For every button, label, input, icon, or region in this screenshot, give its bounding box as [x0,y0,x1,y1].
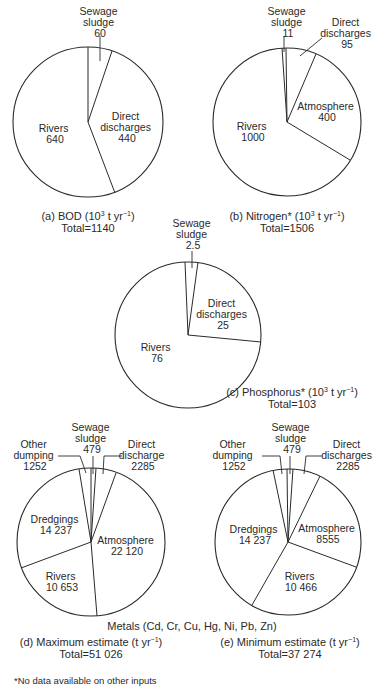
pie-chart-bod: Sewage sludge 60 Direct discharges 440 R… [13,5,163,234]
metals-heading: Metals (Cd, Cr, Cu, Hg, Ni, Pb, Zn) [107,620,276,632]
chart-caption: (a) BOD (103 t yr−1) [41,210,134,222]
chart-total: Total=37 274 [258,648,321,660]
label-rivers: Rivers 1000 [237,120,270,143]
label-rivers: Rivers 10 466 [285,570,318,593]
chart-total: Total=103 [268,398,316,410]
chart-total: Total=1506 [260,222,314,234]
chart-total: Total=51 026 [59,648,122,660]
label-rivers: Rivers 10 653 [46,570,79,593]
label-direct-discharge: Direct discharge 2285 [119,438,167,472]
label-other-dumping: Other dumping 1252 [13,438,56,472]
label-direct-discharges: Direct discharges 95 [320,16,374,50]
pie-chart-nitrogen: Sewage sludge 11 Direct discharges 95 At… [213,5,374,234]
chart-caption: (c) Phosphorus* (103 t yr−1) [226,386,358,398]
chart-caption: (d) Maximum estimate (t yr−1) [20,636,162,648]
chart-caption: (e) Minimum estimate (t yr−1) [220,636,359,648]
label-sewage-sludge: Sewage sludge 11 [268,5,309,39]
label-direct-discharges: Direct discharges 2285 [321,438,375,472]
chart-caption: (b) Nitrogen* (103 t yr−1) [229,210,344,222]
footnote: *No data available on other inputs [14,675,157,686]
pie-chart-phosphorus: Sewage sludge 2.5 Direct discharges 25 R… [115,217,358,410]
label-sewage-sludge: Sewage sludge 479 [72,421,113,455]
label-sewage-sludge: Sewage sludge 2.5 [173,217,214,251]
label-other-dumping: Other dumping 1252 [212,438,255,472]
label-sewage-sludge: Sewage sludge 479 [272,421,313,455]
chart-total: Total=1140 [61,222,114,234]
figure: Sewage sludge 60 Direct discharges 440 R… [0,0,385,695]
label-sewage-sludge: Sewage sludge 60 [80,5,121,39]
